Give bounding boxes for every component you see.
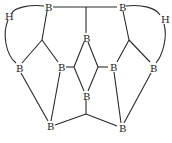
bond-tr-junction <box>123 11 129 40</box>
atom-b-bottom-left: B <box>47 121 54 132</box>
bond-bcr-bbr <box>114 72 121 123</box>
atom-b-top-right: B <box>119 2 126 13</box>
bond-diamond-cb-left <box>74 67 84 91</box>
bond-tl-junction <box>42 11 47 40</box>
bond-junction-bcl <box>42 40 58 62</box>
atom-b-top-left: B <box>45 2 52 13</box>
atom-h-left: H <box>5 11 14 22</box>
atom-b-center-left: B <box>58 62 65 73</box>
atom-b-bottom-right: B <box>119 123 126 134</box>
bond-diamond-cb-right <box>88 67 98 91</box>
bond-bcl-bbl <box>51 72 60 121</box>
bond-junction-bcr <box>117 40 129 62</box>
atom-b-left: B <box>16 63 23 74</box>
atom-b-right: B <box>150 63 157 74</box>
atom-b-center-right: B <box>110 62 117 73</box>
bond-ct-diamond-right <box>88 42 98 67</box>
bond-junction-bleft <box>22 40 42 63</box>
atom-b-center-top: B <box>83 33 90 44</box>
bond-junction-bbl <box>55 114 86 125</box>
borane-structure-diagram: B B H H B B B B B B B B <box>0 0 172 143</box>
bond-junction-bright <box>129 40 150 62</box>
atom-b-center-bottom: B <box>83 91 90 102</box>
bond-ct-diamond-left <box>74 42 84 67</box>
h-bridge-right <box>126 5 165 63</box>
bond-junction-bbr <box>86 114 117 126</box>
atom-h-right: H <box>161 14 170 25</box>
bond-bleft-bbl <box>21 73 48 121</box>
bond-bright-bbr <box>124 73 151 123</box>
